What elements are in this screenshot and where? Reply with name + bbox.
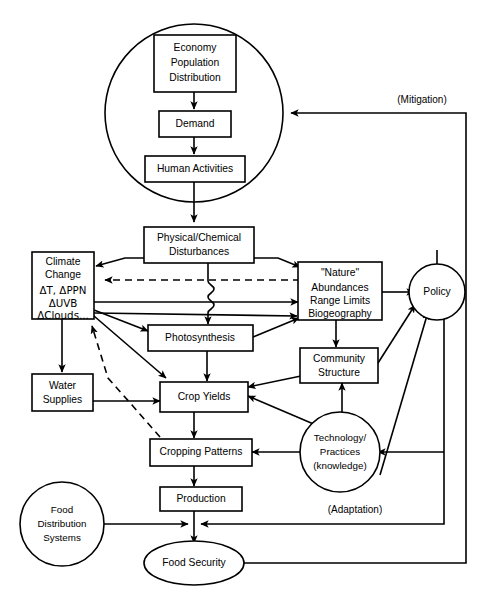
- node-community-structure-line2: Structure: [318, 367, 360, 378]
- node-production-label: Production: [176, 493, 226, 504]
- node-community-structure-line1: Community: [313, 353, 366, 364]
- node-climate-change-line1: Climate: [46, 256, 81, 267]
- node-community-structure[interactable]: Community Structure: [300, 348, 378, 383]
- node-water-supplies[interactable]: Water Supplies: [32, 374, 93, 411]
- node-crop-yields[interactable]: Crop Yields: [160, 382, 248, 412]
- node-water-supplies-line1: Water: [49, 380, 77, 391]
- node-nature-line1: "Nature": [321, 267, 360, 278]
- node-physical-chemical-line2: Disturbances: [169, 246, 229, 257]
- node-food-distribution-line1: Food: [51, 504, 73, 515]
- node-technology-line3: (knowledge): [313, 460, 366, 471]
- node-nature-line3: Range Limits: [310, 295, 370, 306]
- edge-layer: [62, 92, 466, 563]
- node-climate-change[interactable]: Climate Change ΔT, ΔPPN ΔUVB ΔClouds...: [32, 252, 94, 321]
- edge-physical-to-nature: [252, 258, 300, 267]
- node-physical-chemical[interactable]: Physical/Chemical Disturbances: [144, 227, 254, 263]
- node-climate-change-line5: ΔClouds...: [37, 309, 89, 321]
- node-crop-yields-label: Crop Yields: [178, 391, 231, 402]
- node-nature-line2: Abundances: [311, 282, 368, 293]
- node-photosynthesis-label: Photosynthesis: [165, 332, 235, 343]
- node-technology-line2: Practices: [320, 446, 360, 457]
- node-physical-chemical-line1: Physical/Chemical: [157, 232, 241, 243]
- node-food-distribution-line3: Systems: [43, 532, 81, 543]
- node-food-distribution[interactable]: Food Distribution Systems: [20, 482, 104, 566]
- diagram-canvas: Economy Population Distribution Demand H…: [0, 0, 484, 595]
- node-technology-line1: Technology/: [314, 432, 367, 443]
- edge-technology-to-policy: [380, 312, 428, 475]
- node-food-security-label: Food Security: [162, 557, 226, 568]
- node-climate-change-line4: ΔUVB: [49, 297, 78, 309]
- node-economy-line1: Economy: [174, 42, 218, 53]
- node-human-activities-label: Human Activities: [157, 163, 233, 174]
- node-demand-label: Demand: [176, 118, 215, 129]
- edge-community-structure-to-crop-yields: [248, 376, 301, 387]
- node-economy-line2: Population: [171, 57, 220, 68]
- node-production[interactable]: Production: [160, 487, 242, 511]
- node-policy-label: Policy: [423, 286, 451, 297]
- node-food-distribution-line2: Distribution: [37, 518, 86, 529]
- node-climate-change-line2: Change: [45, 269, 81, 280]
- edge-photosynthesis-to-nature: [253, 318, 299, 337]
- node-food-security[interactable]: Food Security: [144, 541, 244, 585]
- edge-food-security-mitigation-to-policy-circle: [244, 113, 466, 563]
- node-cropping-patterns[interactable]: Cropping Patterns: [150, 439, 252, 466]
- annotation-adaptation: (Adaptation): [328, 504, 382, 515]
- diagram-svg: Economy Population Distribution Demand H…: [0, 0, 484, 595]
- node-nature-line4: Biogeography: [308, 308, 372, 319]
- node-policy[interactable]: Policy: [409, 264, 465, 320]
- node-economy[interactable]: Economy Population Distribution: [154, 35, 236, 92]
- node-photosynthesis[interactable]: Photosynthesis: [148, 325, 253, 351]
- node-demand[interactable]: Demand: [159, 111, 231, 137]
- edge-physical-to-photosynthesis: [208, 255, 214, 324]
- node-technology[interactable]: Technology/ Practices (knowledge): [300, 412, 380, 492]
- node-human-activities[interactable]: Human Activities: [145, 156, 245, 182]
- node-economy-line3: Distribution: [169, 72, 221, 83]
- edge-climate-to-nature-lower: [94, 313, 297, 316]
- node-cropping-patterns-label: Cropping Patterns: [160, 446, 243, 457]
- node-nature[interactable]: "Nature" Abundances Range Limits Biogeog…: [298, 262, 382, 320]
- annotation-mitigation: (Mitigation): [397, 94, 446, 105]
- node-climate-change-line3: ΔT, ΔPPN: [39, 284, 86, 296]
- node-water-supplies-line2: Supplies: [43, 394, 83, 405]
